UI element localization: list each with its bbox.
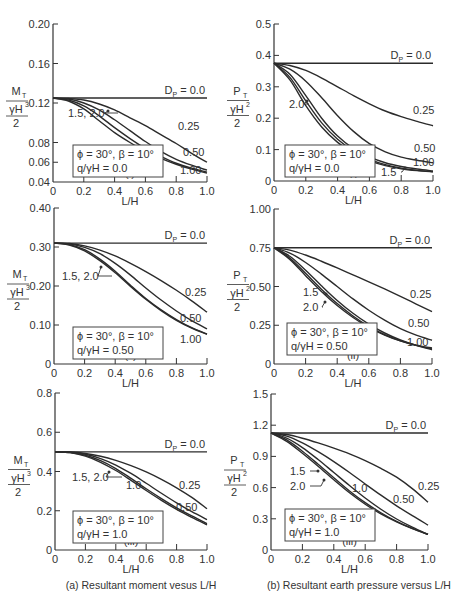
curve-label: 1.00 (413, 156, 434, 168)
svg-text:2: 2 (246, 285, 250, 292)
svg-text:2: 2 (14, 300, 20, 312)
parameter-surcharge: q/γH = 1.0 (289, 526, 339, 538)
x-tick-label: 0.6 (361, 367, 376, 379)
chart-panel-b-iii: 00.30.60.91.21.500.20.40.60.81.0L/H(iii)… (224, 388, 439, 575)
chart-panel-a-ii: 00.100.200.300.4000.20.40.60.81.0L/H(ii)… (7, 202, 215, 389)
x-axis-label: L/H (122, 563, 139, 575)
x-tick-label: 0.4 (108, 553, 123, 565)
svg-text:P: P (233, 269, 240, 281)
y-tick-label: 0.8 (37, 387, 52, 399)
y-tick-label: 0.40 (30, 202, 51, 214)
parameter-angles: ϕ = 30°, β = 10° (77, 148, 154, 160)
x-tick-label: 0.6 (362, 184, 377, 196)
y-tick-label: 1.5 (253, 388, 268, 400)
chart-panel-b-ii: 00.250.500.751.0000.20.40.60.81.0L/H(ii)… (227, 203, 440, 389)
chart-panel-a-iii: 00.20.40.60.800.20.40.60.81.0L/H(iii)MTγ… (8, 387, 215, 575)
y-tick-label: 0.06 (29, 156, 50, 168)
svg-text:M: M (11, 85, 20, 97)
y-tick-label: 0.6 (37, 426, 52, 438)
x-axis-label: L/H (344, 377, 361, 389)
x-tick-label: 0.2 (77, 367, 92, 379)
y-tick-label: 0.20 (30, 280, 51, 292)
y-tick-label: 0.3 (256, 81, 271, 93)
svg-text:2: 2 (15, 486, 21, 498)
parameter-angles: ϕ = 30°, β = 10° (289, 512, 366, 524)
x-tick-label: 0 (271, 367, 277, 379)
caption-right: (b) Resultant earth pressure versus L/H (267, 579, 451, 591)
y-tick-label: 0.04 (29, 176, 50, 188)
dp-label: DP = 0.0 (391, 49, 431, 63)
y-axis-label: MTγH32 (8, 454, 31, 498)
x-tick-label: 0.4 (326, 553, 341, 565)
x-tick-label: 0.2 (298, 367, 313, 379)
y-tick-label: 0.6 (253, 482, 268, 494)
x-tick-label: 1.0 (425, 184, 440, 196)
x-tick-label: 0.8 (393, 367, 408, 379)
svg-text:2: 2 (13, 117, 19, 129)
svg-text:2: 2 (234, 117, 240, 129)
y-tick-label: 0.9 (253, 450, 268, 462)
svg-text:γH: γH (11, 472, 25, 484)
svg-text:γH: γH (227, 472, 241, 484)
svg-text:2: 2 (243, 470, 247, 477)
x-tick-label: 1.0 (199, 367, 214, 379)
parameter-angles: ϕ = 30°, β = 10° (289, 148, 366, 160)
x-axis-label: L/H (121, 195, 138, 207)
x-tick-label: 0 (271, 184, 277, 196)
svg-text:2: 2 (231, 486, 237, 498)
svg-text:2: 2 (234, 301, 240, 313)
x-tick-label: 0.6 (138, 367, 153, 379)
y-tick-label: 0.08 (29, 137, 50, 149)
curve-label: 0.25 (185, 286, 206, 298)
curve-pointer-label: 2.0 (289, 98, 304, 110)
x-tick-label: 1.0 (420, 553, 435, 565)
curve-pointer-label: 1.5 (290, 465, 305, 477)
x-tick-label: 0.8 (394, 184, 409, 196)
svg-text:M: M (12, 268, 21, 280)
figure-canvas: 0.040.060.080.120.160.2000.20.40.60.81.0… (0, 0, 454, 596)
y-axis-label: MTγH32 (6, 85, 29, 129)
arrow-icon (310, 480, 324, 486)
x-tick-label: 0.4 (330, 184, 345, 196)
x-tick-label: 1.0 (199, 185, 214, 197)
x-tick-label: 0.8 (169, 553, 184, 565)
x-axis-label: L/H (345, 194, 362, 206)
y-tick-label: 0.2 (37, 505, 52, 517)
x-tick-label: 0.2 (78, 553, 93, 565)
curve-pointer-label: 2.0 (290, 480, 305, 492)
y-axis-label: PTγH22 (227, 85, 250, 129)
svg-text:γH: γH (9, 103, 23, 115)
y-axis-label: PTγH22 (224, 454, 247, 498)
curve-label: 0.25 (418, 480, 439, 492)
y-tick-label: 1.00 (250, 203, 271, 215)
curve-pointer-label: 1.5 (381, 166, 396, 178)
curve-label: 0.25 (413, 104, 434, 116)
curve-label: 0.25 (410, 288, 431, 300)
x-tick-label: 0.2 (298, 184, 313, 196)
y-tick-label: 0.1 (256, 144, 271, 156)
dp-label: DP = 0.0 (386, 419, 426, 433)
y-tick-label: 0.5 (256, 18, 271, 30)
svg-text:T: T (243, 92, 248, 99)
curve-label: 1.0 (352, 482, 367, 494)
y-tick-label: 0.50 (250, 281, 271, 293)
y-tick-label: 1.2 (253, 419, 268, 431)
x-axis-label: L/H (122, 377, 139, 389)
svg-text:T: T (243, 276, 248, 283)
curve-label: 0.25 (179, 479, 200, 491)
y-tick-label: 0.4 (256, 49, 271, 61)
x-tick-label: 0 (51, 367, 57, 379)
svg-text:γH: γH (230, 103, 244, 115)
x-tick-label: 0.4 (108, 367, 123, 379)
curve-label: 0.50 (183, 146, 204, 158)
y-tick-label: 0.75 (250, 242, 271, 254)
x-tick-label: 0.8 (389, 553, 404, 565)
x-tick-label: 0.6 (138, 185, 153, 197)
curve-label: 1.00 (180, 164, 201, 176)
svg-text:γH: γH (230, 287, 244, 299)
curve-label: 0.50 (414, 142, 435, 154)
dp-label: DP = 0.0 (165, 229, 205, 243)
x-tick-label: 0 (50, 185, 56, 197)
parameter-surcharge: q/γH = 0.0 (77, 162, 127, 174)
x-tick-label: 0.8 (169, 185, 184, 197)
